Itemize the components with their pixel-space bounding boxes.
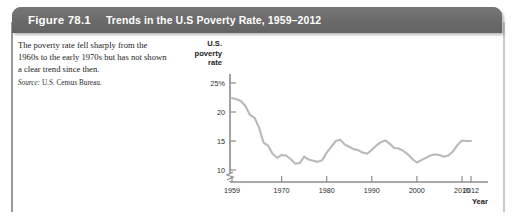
y-axis-title-line: poverty [195, 49, 223, 58]
y-tick-label: 25% [211, 79, 226, 88]
data-series [232, 98, 471, 164]
caption-source: Source: U.S. Census Bureau. [18, 79, 168, 88]
y-axis: 25%201510 [211, 74, 236, 182]
y-axis-title-line: rate [208, 58, 222, 67]
x-axis: 1959197019801990200020102012 [224, 176, 488, 195]
x-axis-title: Year [472, 197, 488, 206]
source-text: U.S. Census Bureau. [42, 79, 102, 87]
y-tick-label: 10 [217, 166, 225, 175]
source-label: Source: [18, 79, 40, 87]
figure-right-rule [503, 22, 505, 212]
x-tick-label: 2012 [463, 186, 479, 195]
figure-left-rule [11, 22, 13, 212]
axis-labels: U.S.povertyrateYear [195, 39, 488, 206]
x-tick-label: 1980 [319, 186, 335, 195]
poverty-rate-line-chart: 25%201510 1959197019801990200020102012 U… [183, 36, 503, 211]
y-tick-label: 15 [217, 137, 225, 146]
y-axis-title-line: U.S. [207, 39, 222, 48]
figure-header-bar: Figure 78.1 Trends in the U.S Poverty Ra… [12, 7, 502, 33]
chart-svg: 25%201510 1959197019801990200020102012 U… [183, 36, 503, 211]
figure-number: Figure 78.1 [28, 14, 91, 26]
caption-text: The poverty rate fell sharply from the 1… [18, 40, 168, 76]
figure-caption: The poverty rate fell sharply from the 1… [18, 40, 168, 88]
x-tick-label: 1990 [364, 186, 380, 195]
x-tick-label: 1970 [274, 186, 290, 195]
x-tick-label: 2000 [409, 186, 425, 195]
figure-container: Figure 78.1 Trends in the U.S Poverty Ra… [0, 0, 518, 219]
poverty-rate-line [232, 98, 471, 164]
figure-title: Trends in the U.S Poverty Rate, 1959–201… [106, 14, 321, 26]
x-tick-label: 1959 [224, 186, 240, 195]
y-tick-label: 20 [217, 108, 225, 117]
figure-header-inner: Figure 78.1 Trends in the U.S Poverty Ra… [12, 7, 502, 33]
